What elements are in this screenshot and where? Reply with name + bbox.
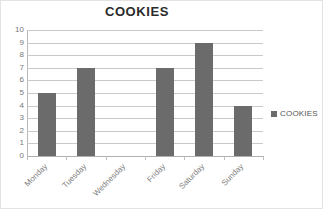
chart-container: COOKIES 012345678910 MondayTuesdayWednes… <box>0 0 323 209</box>
bar <box>77 68 95 156</box>
y-tick-label-4: 4 <box>2 102 24 110</box>
y-axis-tick-labels: 012345678910 <box>1 30 24 156</box>
x-label-holder: Wednesday <box>106 160 145 208</box>
bar-slot <box>106 30 145 156</box>
y-tick-label-1: 1 <box>2 139 24 147</box>
x-tick <box>224 156 225 160</box>
x-tick-label-text: Sunday <box>220 162 246 188</box>
y-tick-label-2: 2 <box>2 127 24 135</box>
y-tick-label-5: 5 <box>2 89 24 97</box>
x-label-holder: Saturday <box>184 160 223 208</box>
legend-label-cookies: COOKIES <box>280 110 318 118</box>
x-tick <box>66 156 67 160</box>
x-tick <box>184 156 185 160</box>
y-tick-label-6: 6 <box>2 76 24 84</box>
y-tick-label-9: 9 <box>2 39 24 47</box>
y-tick-label-0: 0 <box>2 152 24 160</box>
x-tick <box>106 156 107 160</box>
x-tick <box>27 156 28 160</box>
bar-slot <box>27 30 66 156</box>
chart-title: COOKIES <box>1 4 273 19</box>
x-label-holder: Sunday <box>224 160 263 208</box>
x-tick-label-text: Friday <box>145 162 167 184</box>
bar-slot <box>224 30 263 156</box>
bar <box>156 68 174 156</box>
bar <box>234 106 252 156</box>
chart-legend: COOKIES <box>271 110 318 118</box>
y-tick-label-10: 10 <box>2 26 24 34</box>
x-tick <box>263 156 264 160</box>
y-tick-label-8: 8 <box>2 51 24 59</box>
bar-slot <box>184 30 223 156</box>
x-axis-category-labels: MondayTuesdayWednesdayFridaySaturdaySund… <box>27 160 263 208</box>
bar <box>38 93 56 156</box>
legend-swatch-cookies <box>271 111 277 117</box>
x-tick-label-text: Monday <box>23 162 49 188</box>
bar-slot <box>66 30 105 156</box>
x-tick <box>145 156 146 160</box>
y-tick-label-3: 3 <box>2 114 24 122</box>
y-tick-label-7: 7 <box>2 64 24 72</box>
bar <box>195 43 213 156</box>
